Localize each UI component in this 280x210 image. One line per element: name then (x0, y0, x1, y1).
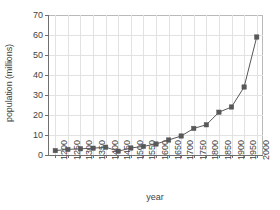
x-axis-title: year (48, 192, 262, 202)
data-point-marker (229, 105, 233, 109)
x-tick-mark (219, 155, 220, 158)
data-point-marker (129, 146, 133, 150)
y-tick-mark (45, 135, 48, 136)
y-tick-label: 50 (33, 50, 43, 60)
data-point-marker (116, 149, 120, 153)
data-point-marker (103, 145, 107, 149)
x-tick-mark (244, 155, 245, 158)
x-tick-mark (156, 155, 157, 158)
y-axis-title: population (millions) (2, 8, 16, 158)
series-markers (53, 35, 259, 154)
population-line-chart: population (millions) 010203040506070 12… (0, 0, 280, 210)
data-point-marker (154, 142, 158, 146)
y-tick-label: 40 (33, 70, 43, 80)
y-tick-mark (45, 155, 48, 156)
y-tick-label: 70 (33, 10, 43, 20)
x-tick-mark (68, 155, 69, 158)
x-tick-mark (194, 155, 195, 158)
x-tick-mark (93, 155, 94, 158)
x-tick-mark (143, 155, 144, 158)
x-tick-mark (206, 155, 207, 158)
x-tick-mark (232, 155, 233, 158)
data-point-marker (91, 146, 95, 150)
data-point-marker (192, 126, 196, 130)
data-point-marker (242, 85, 246, 89)
y-tick-mark (45, 95, 48, 96)
x-tick-mark (181, 155, 182, 158)
y-tick-mark (45, 75, 48, 76)
y-tick-label: 20 (33, 110, 43, 120)
x-tick-mark (257, 155, 258, 158)
data-point-marker (166, 138, 170, 142)
data-point-marker (217, 110, 221, 114)
data-series (49, 15, 263, 155)
y-tick-mark (45, 35, 48, 36)
plot-area: 010203040506070 120012501300135014001450… (48, 15, 263, 156)
data-point-marker (204, 123, 208, 127)
y-tick-mark (45, 115, 48, 116)
y-tick-label: 10 (33, 130, 43, 140)
data-point-marker (66, 147, 70, 151)
data-point-marker (255, 35, 259, 39)
data-point-marker (53, 148, 57, 152)
y-tick-mark (45, 15, 48, 16)
x-tick-mark (80, 155, 81, 158)
series-line (55, 37, 256, 151)
y-tick-label: 0 (38, 150, 43, 160)
data-point-marker (78, 147, 82, 151)
x-tick-mark (131, 155, 132, 158)
y-tick-label: 30 (33, 90, 43, 100)
x-tick-mark (169, 155, 170, 158)
x-tick-mark (55, 155, 56, 158)
data-point-marker (179, 134, 183, 138)
data-point-marker (141, 144, 145, 148)
x-tick-mark (106, 155, 107, 158)
y-tick-mark (45, 55, 48, 56)
x-tick-mark (118, 155, 119, 158)
y-tick-label: 60 (33, 30, 43, 40)
